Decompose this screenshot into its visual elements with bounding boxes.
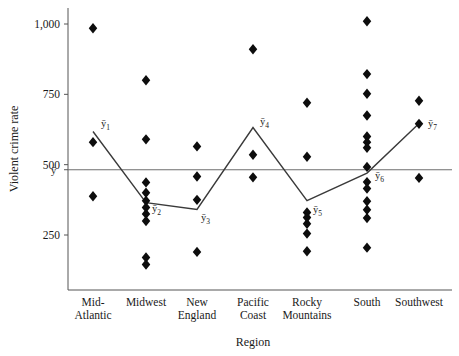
data-point [193,171,202,181]
data-point [142,177,151,187]
data-point [363,242,372,252]
y-tick-label: 250 [43,229,61,241]
data-point [303,98,312,108]
grand-mean-label: ȳ [51,165,57,176]
data-point [415,173,424,183]
data-point [303,246,312,256]
x-tick-label: Mid- [82,296,105,308]
x-tick-label: Atlantic [74,309,111,321]
data-point [142,259,151,269]
x-tick-label: Rocky [292,296,322,309]
data-points [89,16,424,270]
data-point [142,75,151,85]
data-point [249,44,258,54]
y-axis-ticks: 2505007501,000 [34,18,68,241]
group-mean-label: ȳ4 [260,116,269,130]
y-tick-label: 750 [43,88,61,100]
data-point [415,96,424,106]
x-tick-label: South [354,296,381,308]
x-axis-labels: Mid-AtlanticMidwestNewEnglandPacificCoas… [74,296,443,322]
x-tick-label: Southwest [395,296,444,308]
x-tick-label: Coast [240,309,267,321]
data-point [363,89,372,99]
data-point [303,219,312,229]
x-axis-title: Region [236,335,271,349]
data-point [363,110,372,120]
data-point [89,23,98,33]
data-point [303,228,312,238]
group-mean-label: ȳ6 [375,170,384,184]
data-point [415,119,424,129]
plot-area: 2505007501,000Violent crime rateMid-Atla… [0,0,459,356]
x-tick-label: Mountains [282,309,332,321]
data-point [193,195,202,205]
data-point [303,152,312,162]
data-point [142,216,151,226]
axis-frame [68,8,452,290]
data-point [249,150,258,160]
data-point [363,16,372,26]
group-mean-label: ȳ5 [313,204,322,218]
data-point [249,172,258,182]
data-point [363,213,372,223]
data-point [89,191,98,201]
data-point [363,183,372,193]
group-mean-label: ȳ3 [201,212,210,226]
x-tick-label: Pacific [237,296,269,308]
data-point [363,143,372,153]
y-tick-label: 1,000 [34,18,60,31]
violent-crime-rate-scatter-chart: 2505007501,000Violent crime rateMid-Atla… [0,0,459,356]
y-axis-title: Violent crime rate [7,106,21,193]
data-point [89,137,98,147]
data-point [193,141,202,151]
data-point [193,247,202,257]
group-mean-label: ȳ1 [101,118,110,132]
data-point [363,69,372,79]
axes [68,8,452,290]
x-tick-label: New [186,296,208,308]
data-point [142,134,151,144]
group-mean-label: ȳ7 [428,118,437,132]
x-tick-label: England [178,309,217,322]
x-tick-label: Midwest [126,296,167,308]
